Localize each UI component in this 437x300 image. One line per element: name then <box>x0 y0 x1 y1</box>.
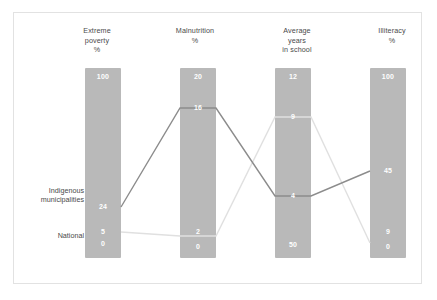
value-extreme-poverty-national: 5 <box>85 228 121 236</box>
value-extreme-poverty-max: 100 <box>85 73 121 81</box>
row-label-national: National <box>18 231 84 240</box>
value-illiteracy-indigenous: 45 <box>370 167 406 175</box>
value-average-years-bottom: 50 <box>275 241 311 249</box>
row-label-indigenous-municipalities: Indigenous municipalities <box>18 186 84 205</box>
column-header-average-years-in-school: Average years in school <box>262 26 332 55</box>
column-header-extreme-poverty: Extreme poverty % <box>67 26 127 55</box>
value-average-years-national: 9 <box>275 113 311 121</box>
value-illiteracy-national: 9 <box>370 228 406 236</box>
value-illiteracy-min: 0 <box>370 243 406 251</box>
value-illiteracy-max: 100 <box>370 73 406 81</box>
value-malnutrition-national: 2 <box>180 228 216 236</box>
chart-canvas: Extreme poverty % Malnutrition % Average… <box>0 0 437 300</box>
value-malnutrition-min: 0 <box>180 243 216 251</box>
value-malnutrition-max: 20 <box>180 73 216 81</box>
column-header-malnutrition: Malnutrition % <box>155 26 235 45</box>
value-extreme-poverty-indigenous: 24 <box>85 203 121 211</box>
column-header-illiteracy: Illiteracy % <box>362 26 422 45</box>
value-average-years-max: 12 <box>275 73 311 81</box>
value-average-years-indigenous: 4 <box>275 192 311 200</box>
axis-bar-average-years-in-school <box>275 68 311 258</box>
value-malnutrition-indigenous: 16 <box>180 104 216 112</box>
value-extreme-poverty-min: 0 <box>85 240 121 248</box>
